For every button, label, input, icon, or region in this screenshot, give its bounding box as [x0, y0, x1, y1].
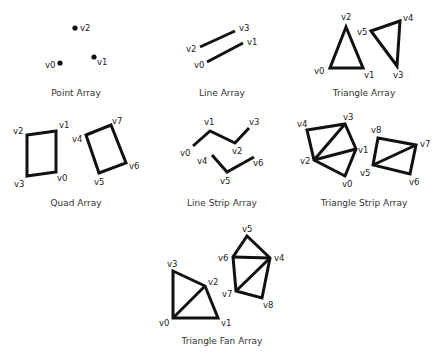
- label-v5: v5: [357, 27, 367, 37]
- label-v7: v7: [222, 289, 232, 299]
- quad-v4-v7: [86, 125, 126, 173]
- label-v0: v0: [314, 66, 324, 76]
- label-v1: v1: [204, 117, 214, 127]
- panel-title: Triangle Fan Array: [181, 336, 264, 346]
- label-v4: v4: [197, 156, 207, 166]
- panel-title: Point Array: [51, 88, 101, 98]
- point-v0: [57, 60, 62, 65]
- label-v5: v5: [242, 224, 252, 234]
- triangle-array-panel: v2 v0 v1 v5 v4 v3 Triangle Array: [314, 12, 413, 98]
- line-strip-array-panel: v0 v1 v2 v3 v4 v5 v6 Line Strip Array: [180, 117, 263, 208]
- label-v8: v8: [371, 125, 381, 135]
- label-v0: v0: [180, 148, 190, 158]
- label-v4: v4: [403, 13, 413, 23]
- label-v5: v5: [360, 168, 370, 178]
- label-v5: v5: [94, 177, 104, 187]
- label-v4: v4: [72, 134, 82, 144]
- label-v0: v0: [45, 60, 55, 70]
- panel-title: Quad Array: [50, 198, 102, 208]
- edge-v5-v7: [373, 145, 416, 165]
- label-v3: v3: [249, 117, 259, 127]
- label-v1: v1: [221, 318, 231, 328]
- edge-v0-v2: [173, 286, 205, 318]
- label-v8: v8: [263, 300, 273, 310]
- line-array-panel: v2 v3 v0 v1 Line Array: [186, 23, 257, 98]
- label-v3: v3: [167, 259, 177, 269]
- point-v1: [91, 54, 96, 59]
- label-v7: v7: [420, 139, 430, 149]
- label-v2: v2: [232, 146, 242, 156]
- label-v7: v7: [112, 116, 122, 126]
- line-strip-v0-v3: [193, 128, 249, 146]
- line-v2-v3: [200, 31, 235, 47]
- label-v1: v1: [97, 57, 107, 67]
- quad-array-panel: v2 v1 v0 v3 v4 v7 v6 v5 Quad Array: [13, 116, 139, 208]
- point-v2: [72, 25, 77, 30]
- point-array-panel: v2 v1 v0 Point Array: [45, 23, 107, 98]
- edge-v6-v4: [233, 257, 270, 258]
- label-v6: v6: [129, 161, 139, 171]
- primitive-arrays-diagram: v2 v1 v0 Point Array v2 v3 v0 v1 Line Ar…: [0, 0, 441, 362]
- panel-title: Triangle Strip Array: [320, 198, 408, 208]
- label-v5: v5: [220, 176, 230, 186]
- line-strip-v4-v6: [212, 155, 254, 172]
- label-v0: v0: [159, 318, 169, 328]
- label-v3: v3: [393, 70, 403, 80]
- triangle-v3-v4-v5: [371, 21, 400, 66]
- label-v1: v1: [358, 145, 368, 155]
- label-v1: v1: [247, 37, 257, 47]
- label-v3: v3: [343, 112, 353, 122]
- label-v2: v2: [208, 277, 218, 287]
- triangle-fan-array-panel: v3 v2 v0 v1 v5 v6 v4 v7 v8 Triangle Fan …: [159, 224, 284, 346]
- label-v0: v0: [342, 179, 352, 189]
- label-v6: v6: [253, 158, 263, 168]
- label-v1: v1: [59, 120, 69, 130]
- panel-title: Line Strip Array: [187, 198, 258, 208]
- label-v3: v3: [14, 179, 24, 189]
- label-v2: v2: [300, 156, 310, 166]
- label-v2: v2: [13, 126, 23, 136]
- label-v4: v4: [297, 119, 307, 129]
- panel-title: Triangle Array: [332, 88, 396, 98]
- triangle-strip-array-panel: v4 v3 v1 v2 v0 v8 v7 v5 v6 Triangle Stri…: [297, 112, 430, 208]
- label-v3: v3: [239, 23, 249, 33]
- label-v2: v2: [186, 44, 196, 54]
- label-v0: v0: [194, 60, 204, 70]
- label-v1: v1: [364, 70, 374, 80]
- quad-v0-v3: [27, 131, 56, 176]
- label-v4: v4: [274, 253, 284, 263]
- label-v0: v0: [57, 173, 67, 183]
- label-v2: v2: [341, 12, 351, 22]
- label-v6: v6: [409, 177, 419, 187]
- panel-title: Line Array: [199, 88, 246, 98]
- line-v0-v1: [207, 43, 243, 62]
- label-v2: v2: [80, 23, 90, 33]
- label-v6: v6: [218, 253, 228, 263]
